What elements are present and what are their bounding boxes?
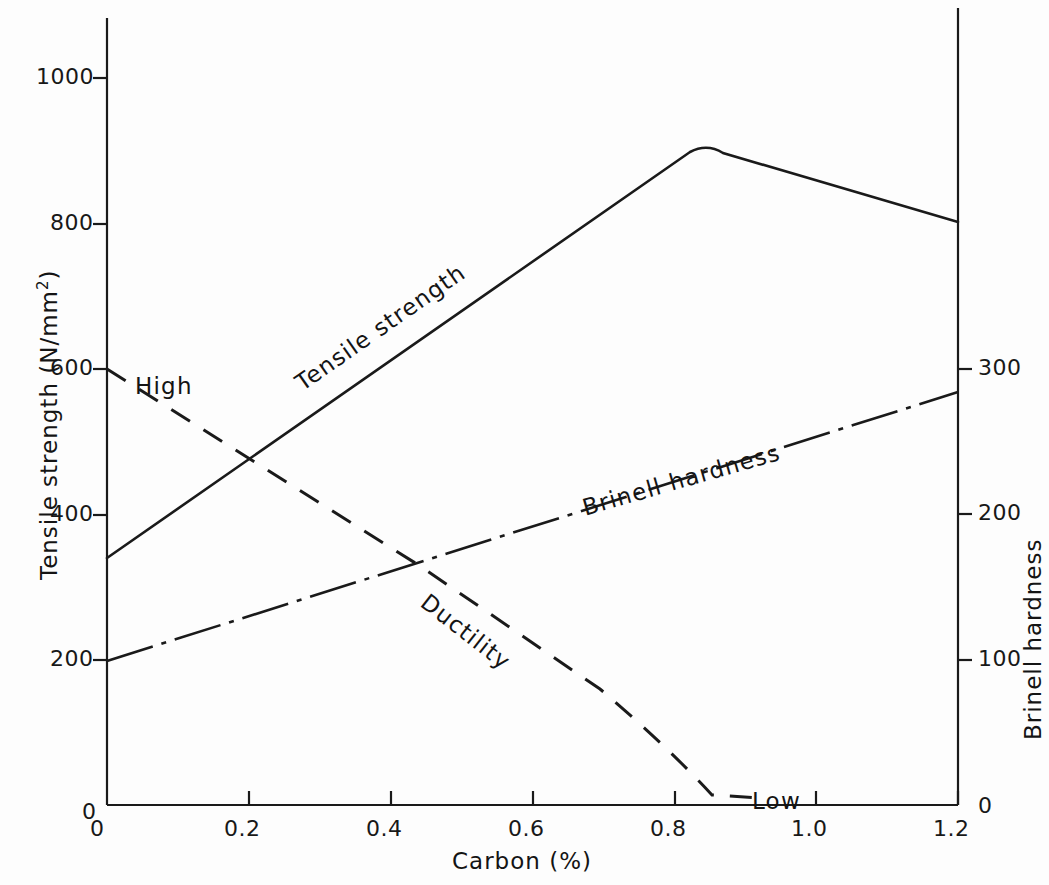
y2-tick-label-0: 0 [978, 793, 993, 818]
left-axis-ticks [93, 78, 107, 660]
y-tick-label-200: 200 [50, 646, 94, 671]
right-axis-ticks [958, 369, 972, 660]
series-brinell-hardness-line [107, 392, 958, 661]
x-tick-label-1-0: 1.0 [791, 816, 828, 841]
x-tick-label-0-6: 0.6 [508, 816, 545, 841]
y2-axis-title: Brinell hardness [1020, 539, 1046, 740]
x-axis-title: Carbon (%) [452, 848, 592, 874]
x-tick-label-0-2: 0.2 [224, 816, 261, 841]
annotation-low: Low [752, 788, 801, 814]
x-tick-label-1-2: 1.2 [933, 816, 970, 841]
y-tick-label-1000: 1000 [36, 64, 94, 89]
y-axis-title-text: Tensile strength (N/mm [36, 290, 62, 580]
x-tick-label-0-8: 0.8 [650, 816, 687, 841]
bottom-axis-ticks [249, 791, 958, 805]
series-tensile-strength-line [107, 148, 958, 558]
x-tick-label-0-4: 0.4 [366, 816, 403, 841]
y2-tick-label-200: 200 [978, 500, 1022, 525]
y-tick-label-800: 800 [50, 210, 94, 235]
x-tick-label-0: 0 [90, 816, 105, 841]
annotation-high: High [135, 373, 193, 399]
y2-tick-label-300: 300 [978, 355, 1022, 380]
chart-plot-area [0, 0, 1049, 885]
y-axis-title-close: ) [36, 269, 62, 279]
y-axis-title-superscript: 2 [34, 279, 52, 290]
y-axis-title: Tensile strength (N/mm2) [34, 269, 62, 580]
y2-tick-label-100: 100 [978, 646, 1022, 671]
chart-figure: 1000 800 600 400 200 0 300 200 100 0 0 0… [0, 0, 1049, 885]
series-ductility-line [107, 369, 760, 798]
